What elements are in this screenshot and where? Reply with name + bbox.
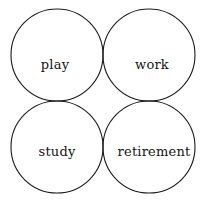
circle-work (103, 9, 195, 101)
label-retirement: retirement (118, 144, 191, 159)
circle-play (11, 9, 103, 101)
label-work: work (135, 57, 169, 72)
label-study: study (39, 144, 76, 159)
label-play: play (41, 57, 70, 72)
venn-diagram-canvas: play work study retirement (0, 0, 207, 202)
venn-diagram: play work study retirement (0, 0, 207, 202)
